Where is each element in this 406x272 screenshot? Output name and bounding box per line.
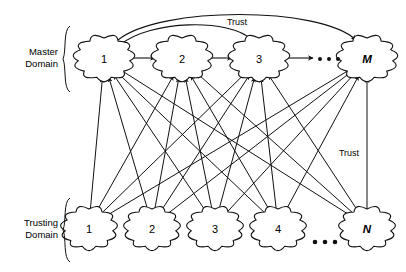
ellipsis-trusting-ellipsis (313, 240, 338, 245)
ellipsis-dot (318, 57, 322, 61)
domain-node-label: 4 (275, 223, 281, 235)
domain-node-trusting-2[interactable]: 2 (124, 206, 181, 250)
domain-node-master-2[interactable]: 2 (151, 35, 212, 81)
domain-node-trusting-4[interactable]: 4 (250, 206, 307, 250)
ellipsis-layer (313, 57, 340, 244)
diagram-canvas: 123M1234N MasterDomainTrustingDomainTrus… (0, 0, 406, 272)
ellipsis-dot (323, 240, 328, 245)
trust-link-t3-to-m2 (185, 78, 212, 210)
group-label-line2: Domain (25, 58, 58, 69)
domain-node-label: N (363, 223, 372, 235)
trust-link-tN-to-m1 (119, 69, 354, 218)
domain-node-label: 1 (86, 223, 92, 235)
trust-link-t4-to-mM (285, 76, 359, 212)
group-label-line2: Domain (25, 229, 58, 240)
domain-node-trusting-3[interactable]: 3 (187, 206, 244, 250)
domain-node-label: 3 (256, 53, 262, 65)
group-label-line1: Trusting (24, 217, 58, 228)
group-brace-master (63, 26, 70, 92)
domain-node-trusting-n[interactable]: N (339, 206, 396, 250)
ellipsis-dot (333, 240, 338, 245)
edge-label-trust-right: Trust (339, 148, 360, 158)
trust-link-t1-to-m1 (90, 78, 102, 210)
group-label-trusting: TrustingDomain (24, 217, 58, 240)
trust-link-t4-to-m3 (261, 78, 276, 210)
trust-link-t2-to-m2 (155, 78, 179, 210)
domain-node-master-m[interactable]: M (336, 35, 397, 81)
ellipsis-master-ellipsis (318, 57, 340, 61)
trust-link-tN-to-m2 (195, 72, 356, 216)
trust-link-t2-to-m1 (109, 78, 148, 211)
group-label-line1: Master (29, 46, 58, 57)
edge-label-trust-top: Trust (227, 17, 248, 27)
ellipsis-dot (336, 57, 340, 61)
domain-node-label: 1 (101, 53, 107, 65)
domain-node-label: M (362, 53, 372, 65)
domain-node-label: 2 (179, 53, 185, 65)
trust-link-t1-to-m3 (100, 72, 247, 215)
ellipsis-dot (313, 240, 318, 245)
group-label-master: MasterDomain (25, 46, 58, 69)
mesh-links-layer (90, 69, 367, 219)
trust-link-t4-to-m2 (191, 76, 271, 213)
domain-nodes-layer: 123M1234N (61, 35, 398, 250)
domain-node-label: 3 (212, 223, 218, 235)
ellipsis-dot (327, 57, 331, 61)
trust-link-t4-to-m1 (117, 72, 267, 215)
trust-domain-diagram: 123M1234N MasterDomainTrustingDomainTrus… (0, 0, 406, 272)
domain-node-master-3[interactable]: 3 (228, 35, 289, 81)
domain-node-master-1[interactable]: 1 (73, 35, 134, 81)
domain-node-trusting-1[interactable]: 1 (61, 206, 118, 250)
domain-node-label: 2 (149, 223, 155, 235)
